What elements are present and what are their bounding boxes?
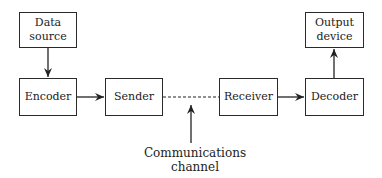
node-label: Encoder — [25, 90, 72, 104]
node-encoder: Encoder — [19, 78, 77, 116]
node-output-device: Output device — [305, 12, 364, 48]
node-label: Data source — [29, 16, 66, 44]
node-decoder: Decoder — [305, 78, 364, 116]
node-receiver: Receiver — [219, 78, 278, 116]
communications-channel-label: Communications channel — [140, 146, 250, 174]
node-label: Output device — [315, 16, 354, 44]
node-label: Decoder — [311, 90, 358, 104]
node-label: Receiver — [224, 90, 273, 104]
node-label: Sender — [114, 90, 154, 104]
node-sender: Sender — [105, 78, 163, 116]
node-data-source: Data source — [19, 12, 77, 48]
